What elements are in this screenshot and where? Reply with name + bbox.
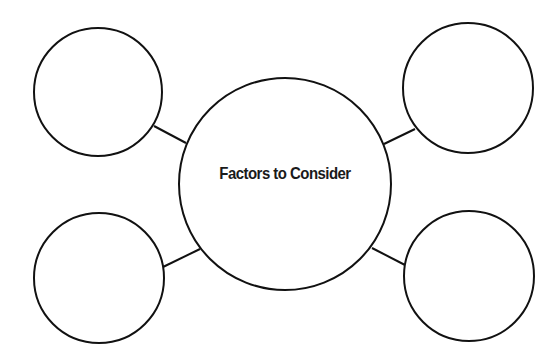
center-label: Factors to Consider (192, 164, 379, 184)
center-circle (179, 78, 391, 290)
connector-bottom-right (372, 248, 405, 265)
outer-circle-bottom-left (34, 213, 164, 343)
connector-top-left (154, 126, 186, 143)
connector-bottom-left (163, 249, 200, 267)
outer-circle-top-right (403, 23, 533, 153)
outer-circle-bottom-right (404, 211, 534, 341)
connector-top-right (384, 129, 415, 144)
outer-circle-top-left (34, 28, 162, 156)
